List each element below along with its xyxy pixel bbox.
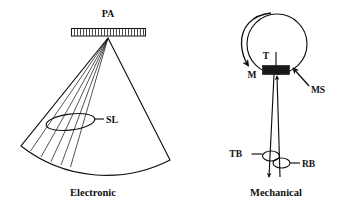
diagram-svg: PA SL Electronic [0, 0, 345, 217]
scan-line-marker [45, 111, 104, 133]
caption-mechanical: Mechanical [250, 187, 302, 198]
sector-fan-outline [21, 38, 170, 175]
ms-arrow [293, 68, 309, 86]
mechanical-panel: T M MS TB RB Mechanical [229, 13, 325, 198]
label-sl: SL [106, 114, 119, 125]
figure-container: PA SL Electronic [0, 0, 345, 217]
electronic-panel: PA SL Electronic [21, 8, 170, 198]
label-rb: RB [302, 159, 316, 169]
label-tb: TB [229, 149, 242, 159]
caption-electronic: Electronic [70, 187, 116, 198]
scan-lines [31, 38, 109, 167]
housing-circle [247, 14, 307, 74]
transducer-body [263, 66, 290, 75]
label-ms: MS [311, 85, 325, 95]
received-beam [277, 76, 280, 177]
phased-array-transducer [72, 29, 146, 37]
label-m: M [248, 70, 257, 80]
label-t: T [263, 51, 270, 61]
label-pa: PA [102, 8, 115, 19]
